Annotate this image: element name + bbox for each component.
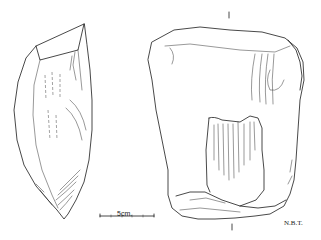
scale-bar-label: 5cm. <box>117 210 132 217</box>
illustrator-initials: N.B.T. <box>284 219 303 227</box>
side-view-artifact <box>14 24 92 219</box>
lithic-drawing <box>0 0 321 240</box>
front-view-artifact <box>148 12 304 230</box>
